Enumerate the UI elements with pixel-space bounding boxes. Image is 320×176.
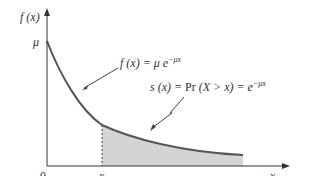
survival-pointer <box>152 97 184 128</box>
x-axis-label: x <box>270 170 275 176</box>
x-marker-label: x <box>99 170 104 176</box>
y-axis-arrow <box>44 8 50 16</box>
pdf-pointer <box>84 68 118 88</box>
survival-shaded-area <box>102 125 243 166</box>
x-axis-arrow <box>282 163 290 169</box>
survival-formula: s (x) = Pr (X > x) = e−μx <box>150 80 266 93</box>
y-intercept-label: μ <box>33 36 39 48</box>
y-axis-label: f (x) <box>20 11 40 23</box>
pdf-formula: f (x) = μ e−μx <box>120 56 181 69</box>
origin-label: 0 <box>40 170 46 176</box>
